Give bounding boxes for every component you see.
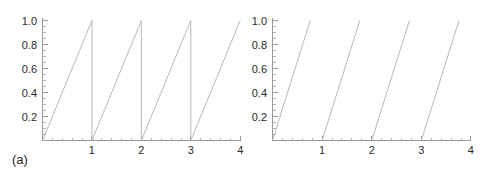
data-series-sawtooth-a bbox=[43, 21, 241, 141]
y-tick-label: 1.0 bbox=[252, 15, 267, 27]
x-tick-label: 4 bbox=[468, 144, 474, 156]
y-tick-label: 0.4 bbox=[22, 87, 37, 99]
x-tick-label: 2 bbox=[138, 144, 144, 156]
data-segment bbox=[421, 21, 459, 141]
data-series-ramp-b bbox=[273, 21, 459, 141]
plot-b-svg: 0.2 0.4 0.6 0.8 1.0 1 2 3 4 bbox=[249, 0, 498, 178]
x-tick-label: 3 bbox=[418, 144, 424, 156]
y-major-ticks-a bbox=[43, 21, 48, 117]
data-segment bbox=[43, 21, 92, 141]
data-segment bbox=[141, 21, 190, 141]
y-tick-label: 1.0 bbox=[22, 15, 37, 27]
y-tick-label: 0.6 bbox=[252, 63, 267, 75]
x-tick-label: 1 bbox=[319, 144, 325, 156]
data-segment bbox=[273, 21, 311, 141]
y-tick-label: 0.8 bbox=[22, 39, 37, 51]
y-tick-label: 0.8 bbox=[252, 39, 267, 51]
y-tick-label: 0.6 bbox=[22, 63, 37, 75]
panel-caption-a: (a) bbox=[12, 152, 28, 167]
data-segment bbox=[191, 21, 240, 141]
data-segment bbox=[372, 21, 410, 141]
y-major-ticks-b bbox=[273, 21, 278, 117]
y-tick-label: 0.4 bbox=[252, 87, 267, 99]
chart-panel-a: 0.2 0.4 0.6 0.8 1.0 1 2 3 4 (a) bbox=[0, 0, 249, 178]
plot-a-svg: 0.2 0.4 0.6 0.8 1.0 1 2 3 4 bbox=[0, 0, 249, 178]
x-tick-label: 2 bbox=[369, 144, 375, 156]
data-segment bbox=[92, 21, 141, 141]
x-tick-label: 1 bbox=[89, 144, 95, 156]
chart-panel-b: 0.2 0.4 0.6 0.8 1.0 1 2 3 4 (b) bbox=[249, 0, 498, 178]
x-tick-label: 4 bbox=[237, 144, 243, 156]
y-tick-label: 0.2 bbox=[252, 111, 267, 123]
data-segment bbox=[322, 21, 360, 141]
x-major-ticks-a bbox=[92, 136, 240, 141]
x-tick-label: 3 bbox=[188, 144, 194, 156]
sawtooth-figure: 0.2 0.4 0.6 0.8 1.0 1 2 3 4 (a) bbox=[0, 0, 499, 178]
y-tick-label: 0.2 bbox=[22, 111, 37, 123]
x-major-ticks-b bbox=[322, 136, 471, 141]
